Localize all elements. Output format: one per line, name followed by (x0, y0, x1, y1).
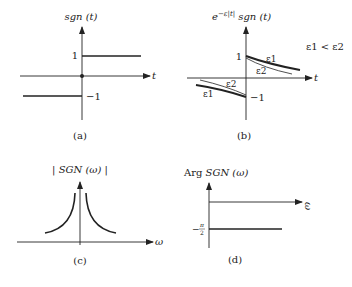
panel-b-title: e−ε|t| sgn (t) (212, 10, 271, 22)
panel-b-label-e2-upper: ε2 (256, 66, 266, 76)
panel-a-title: sgn (t) (65, 11, 98, 22)
panel-a: sgn (t) t 1 −1 (a) (20, 11, 157, 141)
svg-text:2: 2 (200, 229, 204, 236)
panel-a-origin-dot (80, 74, 84, 78)
panel-b-label-e1-upper: ε1 (266, 54, 276, 64)
panel-c-x-label: ω (155, 236, 163, 247)
panel-d-caption: (d) (228, 254, 242, 265)
panel-b-tick-neg1: −1 (250, 92, 265, 103)
panel-b-condition: ε1 < ε2 (306, 41, 344, 52)
panel-c-magnitude-right (86, 193, 116, 233)
panel-c-caption: (c) (73, 255, 87, 266)
panel-d-x-label: ω (303, 202, 314, 210)
panel-c-magnitude-left (45, 193, 75, 233)
panel-b-label-e1-lower: ε1 (203, 89, 213, 99)
panel-c-title: | SGN (ω) | (52, 164, 108, 176)
panel-b-x-label: t (314, 72, 319, 83)
panel-a-x-label: t (152, 70, 157, 81)
figure-sgn-function: sgn (t) t 1 −1 (a) e−ε|t| sgn (t) t 1 −1… (0, 0, 352, 287)
panel-b-tick-1: 1 (236, 51, 242, 62)
panel-a-tick-neg1: −1 (86, 91, 101, 102)
panel-d-title: Arg SGN (ω) (183, 167, 248, 178)
panel-d: Arg SGN (ω) ω − π 2 (d) (183, 167, 314, 265)
panel-d-tick-neg-pi-over-2: − π 2 (192, 221, 205, 236)
svg-text:π: π (199, 221, 205, 228)
panel-a-tick-1: 1 (72, 50, 78, 61)
panel-a-caption: (a) (73, 130, 87, 141)
panel-b-caption: (b) (237, 130, 251, 141)
svg-text:−: − (192, 224, 200, 234)
panel-c: | SGN (ω) | ω (c) (17, 164, 163, 266)
panel-b-label-e2-lower: ε2 (226, 79, 236, 89)
panel-b: e−ε|t| sgn (t) t 1 −1 ε1 ε2 ε2 ε1 ε1 < ε… (187, 10, 344, 141)
